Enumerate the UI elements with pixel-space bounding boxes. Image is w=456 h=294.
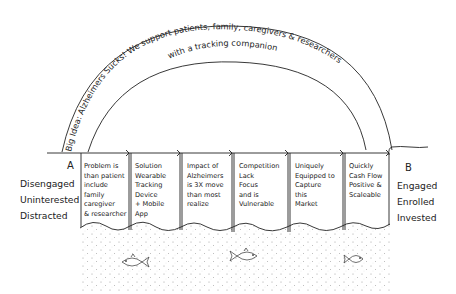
start-states: Disengaged Uninterested Distracted (20, 176, 79, 224)
panel-impact: Impact of Alzheimers is 3X move than mos… (187, 162, 224, 210)
timeline-top (47, 150, 389, 156)
panel-cashflow: Quickly Cash Flow Positive & Scaleable (349, 162, 382, 200)
start-state: Distracted (20, 208, 79, 224)
panel-problem: Problem is than patient include family c… (84, 162, 127, 220)
end-state: Invested (397, 210, 437, 226)
arch-text-line2: with a tracking companion (166, 38, 278, 61)
panel-dividers (81, 153, 389, 232)
panel-competition: Competition Lack Focus and is Vulnerable (239, 162, 279, 210)
start-state: Uninterested (20, 192, 79, 208)
point-a-label: A (67, 160, 74, 171)
end-state: Enrolled (397, 194, 437, 210)
start-state: Disengaged (20, 176, 79, 192)
end-state: Engaged (397, 178, 437, 194)
ledge-b (389, 147, 428, 156)
panel-solution: Solution Wearable Tracking Device + Mobi… (135, 162, 166, 220)
end-states: Engaged Enrolled Invested (397, 178, 437, 226)
panel-unique: Uniquely Equipped to Capture this Market (295, 162, 335, 210)
point-b-label: B (405, 162, 412, 173)
bridge-diagram: Big Idea: Alzheimers Sucks! We support p… (0, 0, 456, 294)
